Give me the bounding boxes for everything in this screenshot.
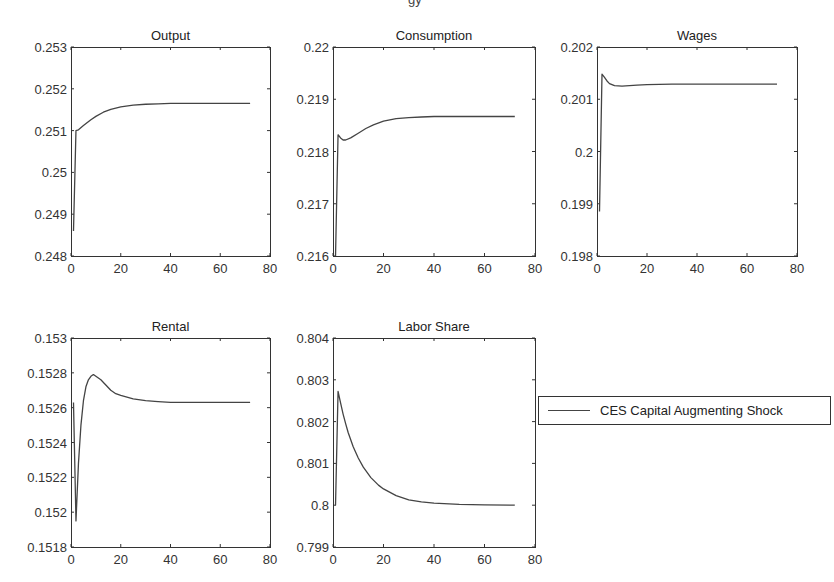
x-tick-label: 20 [114, 261, 128, 276]
y-tick-label: 0.1524 [27, 436, 67, 451]
axes-frame-labor-share [334, 339, 536, 548]
y-tick-label: 0.219 [296, 92, 329, 107]
panel-title-consumption: Consumption [396, 28, 473, 43]
x-tick-label: 60 [740, 261, 754, 276]
x-tick-label: 60 [477, 552, 491, 567]
y-tick-label: 0.202 [560, 40, 593, 55]
x-tick-label: 0 [329, 261, 336, 276]
x-tick-label: 60 [477, 261, 491, 276]
x-tick-label: 40 [163, 261, 177, 276]
panel-title-rental: Rental [152, 319, 190, 334]
panel-rental: Rental0204060800.15180.1520.15220.15240.… [27, 319, 277, 567]
x-tick-label: 0 [67, 552, 74, 567]
y-tick-label: 0.801 [296, 456, 329, 471]
y-tick-label: 0.199 [560, 197, 593, 212]
y-tick-label: 0.198 [560, 249, 593, 264]
x-tick-label: 20 [114, 552, 128, 567]
y-tick-label: 0.25 [42, 165, 67, 180]
y-tick-label: 0.252 [34, 82, 67, 97]
y-tick-label: 0.217 [296, 197, 329, 212]
y-tick-label: 0.8 [311, 498, 329, 513]
panel-title-wages: Wages [677, 28, 717, 43]
y-tick-label: 0.253 [34, 40, 67, 55]
figure: gy Output0204060800.2480.2490.250.2510.2… [0, 0, 834, 582]
panel-output: Output0204060800.2480.2490.250.2510.2520… [34, 28, 277, 276]
y-tick-label: 0.1528 [27, 366, 67, 381]
x-tick-label: 0 [329, 552, 336, 567]
y-tick-label: 0.802 [296, 415, 329, 430]
y-tick-label: 0.1526 [27, 401, 67, 416]
y-tick-label: 0.201 [560, 92, 593, 107]
y-tick-label: 0.152 [34, 505, 67, 520]
legend: CES Capital Augmenting Shock [539, 397, 831, 425]
y-tick-label: 0.249 [34, 207, 67, 222]
panel-labor-share: Labor Share0204060800.7990.80.8010.8020.… [296, 319, 542, 567]
x-tick-label: 40 [163, 552, 177, 567]
figure-title-fragment: gy [408, 0, 422, 7]
y-tick-label: 0.218 [296, 145, 329, 160]
y-tick-label: 0.216 [296, 249, 329, 264]
axes-frame-wages [598, 48, 798, 257]
x-tick-label: 20 [640, 261, 654, 276]
y-tick-label: 0.153 [34, 331, 67, 346]
legend-label: CES Capital Augmenting Shock [600, 403, 783, 418]
x-tick-label: 0 [593, 261, 600, 276]
x-tick-label: 80 [263, 552, 277, 567]
y-tick-label: 0.22 [304, 40, 329, 55]
x-tick-label: 60 [213, 552, 227, 567]
panel-consumption: Consumption0204060800.2160.2170.2180.219… [296, 28, 542, 276]
y-tick-label: 0.251 [34, 124, 67, 139]
y-tick-label: 0.1518 [27, 540, 67, 555]
x-tick-label: 80 [790, 261, 804, 276]
figure-title-clip: gy [408, 0, 422, 7]
y-tick-label: 0.1522 [27, 470, 67, 485]
y-tick-label: 0.2 [575, 145, 593, 160]
y-tick-label: 0.803 [296, 373, 329, 388]
x-tick-label: 60 [213, 261, 227, 276]
panel-title-output: Output [151, 28, 190, 43]
y-tick-label: 0.804 [296, 331, 329, 346]
x-tick-label: 80 [528, 261, 542, 276]
x-tick-label: 20 [376, 261, 390, 276]
x-tick-label: 20 [376, 552, 390, 567]
panel-title-labor-share: Labor Share [398, 319, 470, 334]
panel-wages: Wages0204060800.1980.1990.20.2010.202 [560, 28, 804, 276]
axes-frame-consumption [334, 48, 536, 257]
x-tick-label: 80 [263, 261, 277, 276]
y-tick-label: 0.799 [296, 540, 329, 555]
y-tick-label: 0.248 [34, 249, 67, 264]
axes-frame-output [72, 48, 271, 257]
axes-frame-rental [72, 339, 271, 548]
x-tick-label: 0 [67, 261, 74, 276]
x-tick-label: 40 [427, 261, 441, 276]
x-tick-label: 80 [528, 552, 542, 567]
x-tick-label: 40 [690, 261, 704, 276]
x-tick-label: 40 [427, 552, 441, 567]
